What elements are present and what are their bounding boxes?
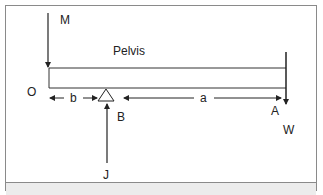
label-M: M [60, 13, 70, 27]
label-B: B [117, 110, 125, 124]
label-b: b [70, 91, 77, 105]
pelvis-beam [49, 68, 286, 88]
fulcrum-triangle [98, 89, 114, 101]
label-pelvis: Pelvis [113, 44, 145, 58]
lever-diagram: M Pelvis O b a B A W J [0, 0, 323, 195]
label-a: a [200, 91, 207, 105]
label-J: J [103, 168, 109, 182]
label-O: O [27, 85, 36, 99]
label-W: W [283, 123, 295, 137]
label-A: A [271, 104, 279, 118]
